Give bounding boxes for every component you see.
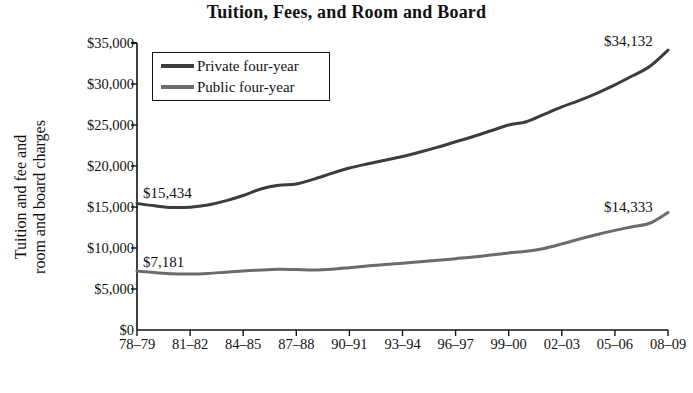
legend-swatch-private-icon	[161, 64, 194, 68]
legend-item-private: Private four-year	[161, 56, 299, 76]
legend-item-public: Public four-year	[161, 77, 295, 97]
chart-legend: Private four-year Public four-year	[152, 52, 330, 101]
legend-swatch-public-icon	[161, 85, 194, 89]
series-line-public	[137, 212, 668, 274]
plot-area	[0, 0, 693, 393]
legend-label-private: Private four-year	[197, 59, 299, 74]
annotation-public-start: $7,181	[143, 255, 184, 270]
chart-figure: Tuition, Fees, and Room and Board Tuitio…	[0, 0, 693, 393]
annotation-public-end: $14,333	[604, 200, 653, 215]
legend-label-public: Public four-year	[197, 80, 295, 95]
annotation-private-start: $15,434	[143, 186, 192, 201]
annotation-private-end: $34,132	[604, 34, 653, 49]
